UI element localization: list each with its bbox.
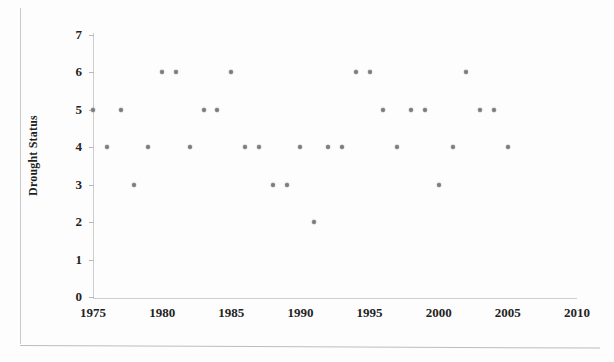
y-axis-title: Drought Status [26, 76, 41, 236]
scatter-point [285, 183, 289, 187]
scatter-point [340, 145, 344, 149]
scatter-point [160, 70, 164, 74]
y-tick-mark [89, 297, 94, 298]
plot-area [93, 35, 577, 297]
scatter-point [368, 70, 372, 74]
page-edge-left-line [20, 8, 21, 344]
scatter-point [478, 108, 482, 112]
scatter-point [243, 145, 247, 149]
x-tick-label: 1990 [270, 306, 330, 319]
scatter-point [91, 108, 95, 112]
scatter-point [215, 108, 219, 112]
scatter-point [257, 145, 261, 149]
y-tick-label: 2 [58, 215, 82, 228]
x-tick-label: 1980 [132, 306, 192, 319]
x-tick-label: 2005 [478, 306, 538, 319]
scatter-point [119, 108, 123, 112]
scatter-point [423, 108, 427, 112]
scatter-point [202, 108, 206, 112]
scatter-point [326, 145, 330, 149]
y-tick-label: 4 [58, 140, 82, 153]
y-tick-label: 7 [58, 28, 82, 41]
scatter-point [132, 183, 136, 187]
x-tick-label: 1985 [201, 306, 261, 319]
scatter-point [409, 108, 413, 112]
scatter-point [437, 183, 441, 187]
x-tick-label: 2000 [409, 306, 469, 319]
scatter-point [298, 145, 302, 149]
page-edge-bottom-line [20, 345, 600, 349]
y-tick-label: 1 [58, 253, 82, 266]
y-tick-label: 0 [58, 290, 82, 303]
scatter-point [492, 108, 496, 112]
scatter-point [312, 220, 316, 224]
x-tick-label: 2010 [547, 306, 607, 319]
y-tick-label: 6 [58, 65, 82, 78]
scatter-point [146, 145, 150, 149]
scatter-point [271, 183, 275, 187]
scatter-point [395, 145, 399, 149]
scatter-point [105, 145, 109, 149]
x-tick-label: 1995 [340, 306, 400, 319]
y-tick-label: 3 [58, 178, 82, 191]
scatter-chart-figure: Drought Status 01234567 1975198019851990… [0, 0, 614, 362]
scatter-point [174, 70, 178, 74]
x-axis-line [93, 298, 577, 299]
y-tick-label: 5 [58, 103, 82, 116]
scatter-point [506, 145, 510, 149]
scatter-point [229, 70, 233, 74]
scatter-point [188, 145, 192, 149]
scatter-point [354, 70, 358, 74]
x-tick-label: 1975 [63, 306, 123, 319]
scatter-point [381, 108, 385, 112]
scatter-point [464, 70, 468, 74]
scatter-point [451, 145, 455, 149]
